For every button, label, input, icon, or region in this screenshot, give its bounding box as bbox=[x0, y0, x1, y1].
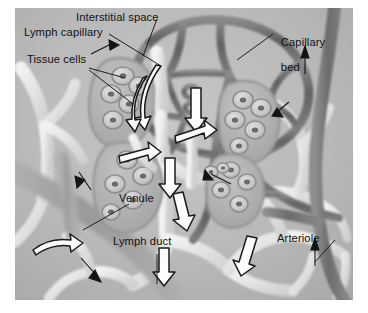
tissue-cell-lobe-right-lower bbox=[206, 154, 264, 227]
label-lymph-duct: Lymph duct bbox=[113, 235, 171, 247]
figure-root: Interstitial space Lymph capillary Tissu… bbox=[0, 0, 368, 313]
label-capillary-bed-line1: Capillary bbox=[281, 36, 325, 48]
label-tissue-cells: Tissue cells bbox=[27, 53, 86, 65]
label-venule: Venule bbox=[119, 192, 154, 204]
label-capillary-bed-line2: bed bbox=[281, 61, 300, 73]
label-interstitial-space: Interstitial space bbox=[76, 11, 159, 23]
label-lymph-capillary: Lymph capillary bbox=[24, 26, 103, 38]
tissue-cell-lobe-right-upper bbox=[219, 81, 280, 164]
label-capillary-bed: Capillary bed bbox=[268, 24, 325, 86]
label-arteriole: Arteriole bbox=[277, 232, 320, 244]
